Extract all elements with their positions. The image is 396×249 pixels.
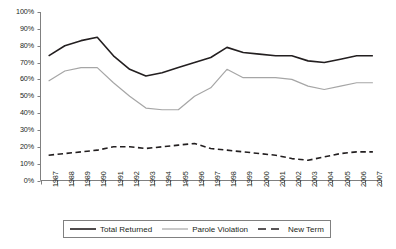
x-tick-label: 1993 [149,171,157,187]
x-tick-label: 1988 [68,171,76,187]
x-tick-label: 1998 [230,171,238,187]
legend-item-new-term: New Term [253,225,329,234]
y-tick-label: 100% [0,8,34,16]
legend-label-total-returned: Total Returned [100,225,152,234]
y-tick-label: 0% [0,177,34,185]
x-tick-label: 1989 [84,171,92,187]
series-line-new-term [49,143,373,160]
x-tick-label: 2004 [327,171,335,187]
x-tick-label: 1996 [198,171,206,187]
x-tick-label: 1994 [165,171,173,187]
x-tick-label: 2007 [376,171,384,187]
y-tick-label: 20% [0,143,34,151]
x-tick-label: 2003 [311,171,319,187]
y-tick-label: 70% [0,59,34,67]
solid-gray-line-swatch [162,225,188,233]
x-tick-label: 1999 [246,171,254,187]
y-tick-label: 40% [0,109,34,117]
series-line-parole-violation [49,68,373,110]
x-tick-label: 2005 [344,171,352,187]
y-tick-label: 80% [0,42,34,50]
legend-label-new-term: New Term [288,225,324,234]
x-tick-label: 2006 [360,171,368,187]
x-tick-label: 2002 [295,171,303,187]
legend-label-parole-violation: Parole Violation [192,225,248,234]
dashed-black-line-swatch [258,225,284,233]
y-tick-label: 50% [0,92,34,100]
x-tick-label: 1997 [214,171,222,187]
y-tick-label: 10% [0,160,34,168]
x-tick-label: 1987 [52,171,60,187]
x-tick-label: 2000 [263,171,271,187]
x-tick-label: 1990 [100,171,108,187]
y-tick-label: 90% [0,25,34,33]
x-tick-label: 1995 [182,171,190,187]
plot-area [0,0,396,249]
y-tick-label: 30% [0,126,34,134]
x-tick-label: 2001 [279,171,287,187]
legend-item-parole-violation: Parole Violation [157,225,253,234]
series-line-total-returned [49,37,373,76]
y-tick-label: 60% [0,75,34,83]
series-lines [49,37,373,160]
chart-figure: 100%90%80%70%60%50%40%30%20%10%0% 198719… [0,0,396,249]
solid-black-line-swatch [70,225,96,233]
x-tick-label: 1991 [117,171,125,187]
legend-item-total-returned: Total Returned [65,225,157,234]
chart-legend: Total Returned Parole Violation New Term [63,220,331,238]
x-tick-label: 1992 [133,171,141,187]
